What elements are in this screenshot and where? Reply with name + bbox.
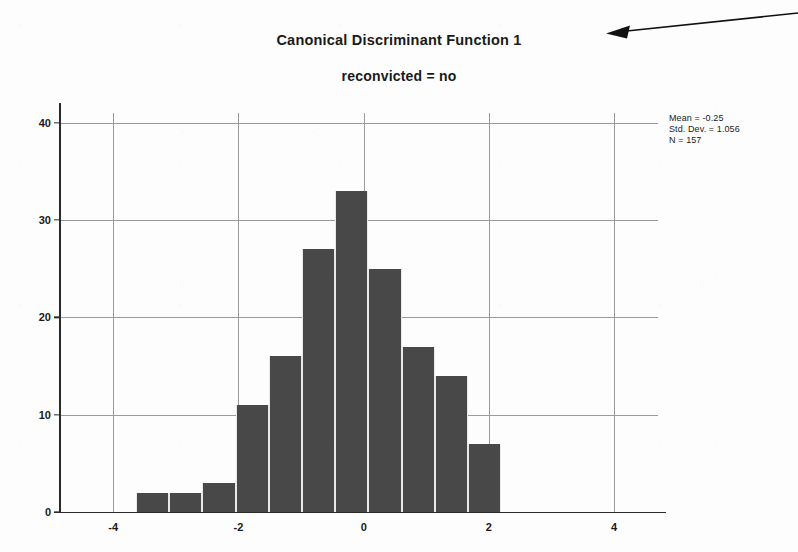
histogram-bar [169,493,202,512]
histogram-bar [202,483,235,512]
chart-subtitle: reconvicted = no [0,68,798,84]
histogram-bar [402,347,435,512]
stat-mean: Mean = -0.25 [669,113,740,124]
histogram-bar [435,376,468,512]
gridline-vertical [614,113,615,512]
histogram-bar [368,269,401,512]
statistics-annotation: Mean = -0.25 Std. Dev. = 1.056 N = 157 [669,113,740,147]
y-tick-label: 30 [39,214,51,226]
histogram-bar [236,405,269,512]
x-tick-label: 2 [486,521,492,533]
histogram-bar [136,493,169,512]
stat-std-dev: Std. Dev. = 1.056 [669,124,740,135]
plot-area: 010203040 -4-2024 [60,113,658,512]
gridline-horizontal [60,123,658,124]
y-tick-label: 10 [39,409,51,421]
plot-inner: 010203040 -4-2024 [60,113,658,512]
x-tick-label: -2 [234,521,244,533]
x-tick-label: 0 [361,521,367,533]
y-tick-label: 40 [39,117,51,129]
histogram-bar [468,444,501,512]
x-axis-line [54,512,666,514]
x-tick-label: -4 [108,521,118,533]
y-tick-label: 20 [39,311,51,323]
histogram-bar [335,191,368,512]
y-tick-label: 0 [45,506,51,518]
histogram-bar [269,356,302,512]
y-axis-line [59,103,61,512]
page-title: Canonical Discriminant Function 1 [0,32,798,48]
histogram-bar [302,249,335,512]
x-tick-label: 4 [611,521,617,533]
chart-page: Canonical Discriminant Function 1 reconv… [0,0,798,552]
stat-n: N = 157 [669,135,740,146]
gridline-vertical [113,113,114,512]
